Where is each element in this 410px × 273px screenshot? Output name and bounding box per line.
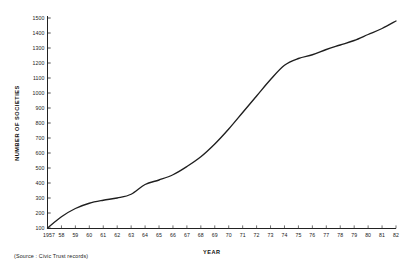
- source-note: (Source : Civic Trust records): [14, 253, 88, 259]
- x-tick-label: 78: [337, 232, 343, 238]
- x-tick-label: 69: [212, 232, 218, 238]
- x-axis-tick-labels: 1957585960616263646566676869707172737475…: [43, 232, 399, 238]
- y-tick-label: 1100: [33, 75, 45, 81]
- x-tick-label: 64: [142, 232, 148, 238]
- y-tick-label: 100: [36, 225, 45, 231]
- x-axis: 1957585960616263646566676869707172737475…: [43, 225, 399, 237]
- x-tick-label: 1957: [43, 232, 55, 238]
- y-tick-label: 200: [36, 210, 45, 216]
- y-tick-label: 1300: [33, 45, 45, 51]
- x-tick-label: 82: [393, 232, 399, 238]
- x-tick-label: 68: [198, 232, 204, 238]
- x-tick-label: 67: [184, 232, 190, 238]
- x-tick-label: 79: [351, 232, 357, 238]
- x-tick-label: 74: [281, 232, 287, 238]
- x-axis-title: YEAR: [203, 249, 221, 255]
- x-tick-label: 75: [295, 232, 301, 238]
- y-tick-label: 400: [36, 180, 45, 186]
- x-tick-label: 61: [100, 232, 106, 238]
- x-tick-label: 58: [58, 232, 64, 238]
- y-tick-label: 800: [36, 120, 45, 126]
- y-tick-label: 500: [36, 165, 45, 171]
- y-tick-label: 1200: [33, 60, 45, 66]
- y-tick-label: 900: [36, 105, 45, 111]
- y-axis-title: NUMBER OF SOCIETIES: [14, 85, 20, 161]
- x-tick-label: 60: [86, 232, 92, 238]
- series-line-number-of-societies: [48, 21, 397, 228]
- y-axis: 1002003004005006007008009001000110012001…: [33, 15, 51, 231]
- y-tick-label: 700: [36, 135, 45, 141]
- x-tick-label: 63: [128, 232, 134, 238]
- x-tick-label: 81: [379, 232, 385, 238]
- y-tick-label: 1000: [33, 90, 45, 96]
- y-tick-label: 300: [36, 195, 45, 201]
- x-tick-label: 73: [268, 232, 274, 238]
- chart-figure: 1002003004005006007008009001000110012001…: [0, 0, 410, 273]
- y-axis-tick-labels: 1002003004005006007008009001000110012001…: [33, 15, 45, 231]
- data-series-group: [48, 21, 397, 228]
- x-tick-label: 77: [323, 232, 329, 238]
- x-tick-label: 70: [226, 232, 232, 238]
- x-tick-label: 66: [170, 232, 176, 238]
- y-tick-label: 1500: [33, 15, 45, 21]
- x-tick-label: 65: [156, 232, 162, 238]
- x-tick-label: 71: [240, 232, 246, 238]
- y-tick-label: 600: [36, 150, 45, 156]
- y-tick-label: 1400: [33, 30, 45, 36]
- x-tick-label: 59: [72, 232, 78, 238]
- line-chart: 1002003004005006007008009001000110012001…: [0, 0, 410, 273]
- x-tick-label: 62: [114, 232, 120, 238]
- x-tick-label: 76: [309, 232, 315, 238]
- x-tick-label: 80: [365, 232, 371, 238]
- x-tick-label: 72: [254, 232, 260, 238]
